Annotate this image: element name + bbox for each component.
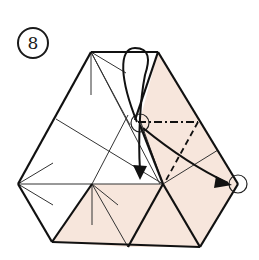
origami-diagram	[0, 0, 259, 260]
